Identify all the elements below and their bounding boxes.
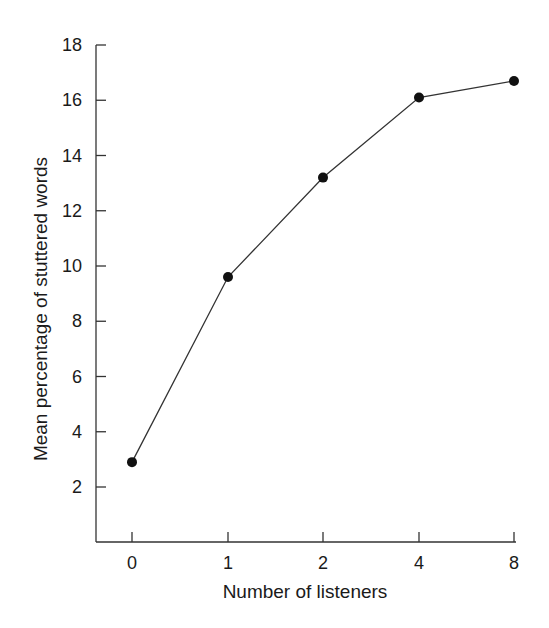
- x-tick-label: 4: [414, 553, 424, 573]
- x-axis: 01248: [96, 532, 519, 573]
- data-point: [223, 272, 233, 282]
- y-tick-label: 8: [72, 311, 82, 331]
- y-tick-label: 2: [72, 477, 82, 497]
- y-tick-label: 12: [62, 201, 82, 221]
- y-tick-label: 10: [62, 256, 82, 276]
- x-tick-label: 8: [509, 553, 519, 573]
- data-series: [127, 76, 519, 467]
- x-tick-label: 0: [127, 553, 137, 573]
- data-point: [127, 457, 137, 467]
- x-axis-title: Number of listeners: [223, 581, 388, 602]
- data-point: [414, 92, 424, 102]
- data-point: [509, 76, 519, 86]
- data-point: [318, 173, 328, 183]
- series-line: [132, 81, 514, 462]
- y-axis: 24681012141618: [62, 35, 106, 542]
- y-tick-label: 18: [62, 35, 82, 55]
- y-tick-label: 16: [62, 90, 82, 110]
- x-tick-label: 2: [318, 553, 328, 573]
- x-tick-label: 1: [223, 553, 233, 573]
- y-tick-label: 6: [72, 367, 82, 387]
- line-chart: 24681012141618 01248 Number of listeners…: [0, 0, 549, 628]
- y-axis-title: Mean percentage of stuttered words: [30, 157, 51, 461]
- y-tick-label: 14: [62, 146, 82, 166]
- y-tick-label: 4: [72, 422, 82, 442]
